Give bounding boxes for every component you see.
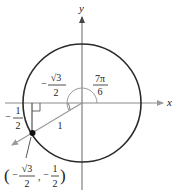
x-axis-label: x <box>166 96 172 108</box>
point-coordinate-label: ( − √3 2 , − 1 2 ) <box>4 163 66 189</box>
svg-text:√3: √3 <box>22 163 33 174</box>
unit-circle-diagram: y x 7π 6 − √3 2 − 1 2 1 ( − √3 2 , − 1 2… <box>0 0 175 192</box>
svg-text:2: 2 <box>25 178 30 189</box>
x-component-label: − √3 2 <box>41 72 66 98</box>
svg-text:(: ( <box>4 166 10 185</box>
svg-text:−: − <box>41 78 47 89</box>
y-component-label: − 1 2 <box>5 105 23 131</box>
svg-text:2: 2 <box>16 120 21 131</box>
svg-text:2: 2 <box>54 87 59 98</box>
svg-text:−: − <box>12 169 18 180</box>
svg-text:−: − <box>43 169 49 180</box>
svg-text:,: , <box>38 171 41 182</box>
svg-text:√3: √3 <box>51 72 62 83</box>
radius-label: 1 <box>58 120 63 131</box>
svg-text:1: 1 <box>16 105 21 116</box>
svg-text:7π: 7π <box>95 73 105 84</box>
svg-text:6: 6 <box>98 86 103 97</box>
angle-label: 7π 6 <box>93 73 108 97</box>
terminal-ray <box>12 103 82 145</box>
svg-text:): ) <box>60 166 66 185</box>
svg-text:2: 2 <box>53 178 58 189</box>
right-angle-mark <box>32 103 40 111</box>
terminal-point <box>30 130 36 136</box>
y-axis-label: y <box>78 2 84 14</box>
svg-text:−: − <box>5 111 11 122</box>
svg-text:1: 1 <box>53 163 58 174</box>
leader-line <box>26 137 31 158</box>
